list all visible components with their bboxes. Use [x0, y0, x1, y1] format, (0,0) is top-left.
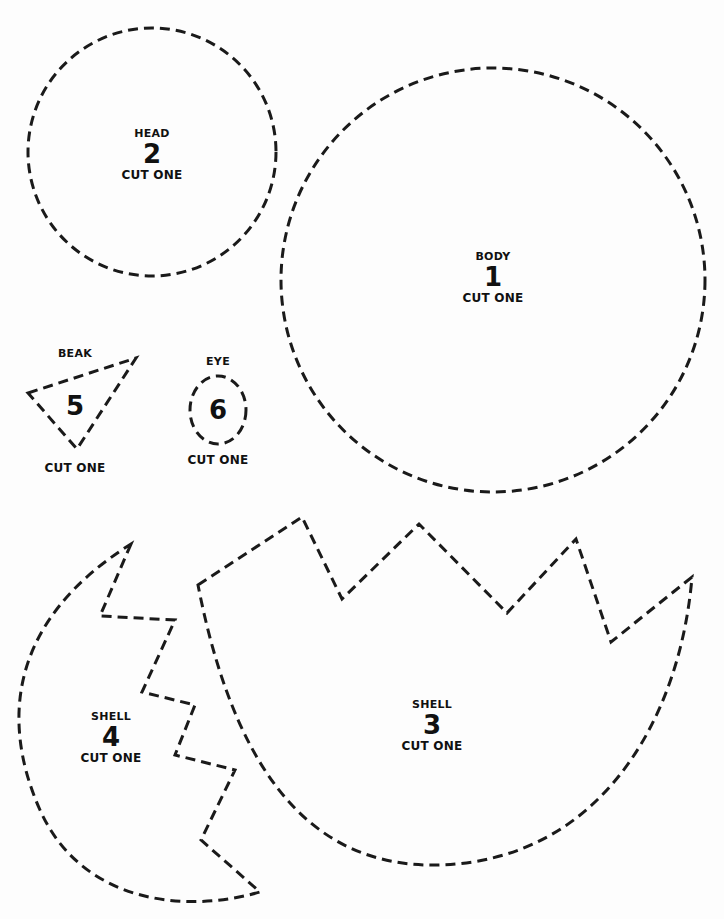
shell-4-label: SHELL 4 CUT ONE: [81, 710, 142, 765]
body-label: BODY 1 CUT ONE: [463, 250, 524, 305]
beak-quantity: CUT ONE: [45, 461, 106, 475]
head-quantity: CUT ONE: [122, 168, 183, 182]
beak-number: 5: [66, 392, 84, 420]
shell-4-quantity: CUT ONE: [81, 751, 142, 765]
shell-3-label: SHELL 3 CUT ONE: [402, 698, 463, 753]
shell-4-number: 4: [102, 723, 120, 751]
eye-name: EYE: [206, 355, 230, 368]
pattern-page: HEAD 2 CUT ONE BODY 1 CUT ONE BEAK 5 CUT…: [0, 0, 724, 919]
eye-quantity: CUT ONE: [188, 453, 249, 467]
body-quantity: CUT ONE: [463, 291, 524, 305]
shell-3-number: 3: [423, 711, 441, 739]
pattern-outlines: [0, 0, 724, 919]
beak-name: BEAK: [58, 347, 92, 360]
shell-3-cut-line: [198, 517, 692, 865]
eye-number: 6: [209, 396, 227, 424]
head-label: HEAD 2 CUT ONE: [122, 127, 183, 182]
body-number: 1: [484, 263, 502, 291]
head-number: 2: [143, 140, 161, 168]
shell-3-quantity: CUT ONE: [402, 739, 463, 753]
